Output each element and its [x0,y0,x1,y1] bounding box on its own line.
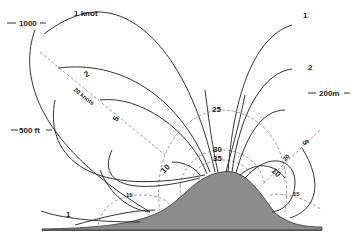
contour-2-left [58,67,210,172]
label-15-right: 15 [293,191,300,197]
label-1-low: 1 [66,210,71,219]
contour-outer-left [30,30,150,212]
contour-left-mid [100,170,150,212]
contour-10-left-upper [172,162,200,175]
label-20-right: 20 [282,153,291,162]
contour-10-left [108,150,200,186]
label-1-knot: 1 knot [74,9,98,18]
contour-5-left [53,100,205,182]
contour-5-right-outer [290,148,315,218]
contour-5-right [236,110,285,173]
scale-1000: 1000 [7,19,46,28]
label-2-left: 2 [83,69,92,79]
dashed-diagonal-right [262,130,320,185]
contour-1-knot [44,12,215,172]
label-20-knots: 20 knots [73,86,96,106]
label-10-left: 10 [159,162,172,175]
label-5-right: 5 [300,139,310,147]
label-25: 25 [212,105,221,114]
label-30: 30 [213,145,222,154]
label-5-left: 5 [111,114,121,123]
contour-top-center-right [226,95,245,172]
label-1-right: 1 [303,11,308,20]
svg-text:1000: 1000 [19,19,37,28]
svg-text:200m: 200m [319,89,339,98]
label-2-right: 2 [308,63,313,72]
wind-flow-diagram: 1000 500 ft 200m 1 knot 2 5 10 1 1 2 5 1… [0,0,355,240]
label-35: 35 [213,154,222,163]
scale-200m: 200m [308,89,350,98]
contour-5-left-upper [100,100,207,174]
label-10-right: 10 [270,166,283,179]
svg-text:500 ft: 500 ft [19,126,40,135]
contour-1-right [228,25,292,172]
scale-500ft: 500 ft [11,126,52,135]
label-15-left: 15 [126,192,133,198]
